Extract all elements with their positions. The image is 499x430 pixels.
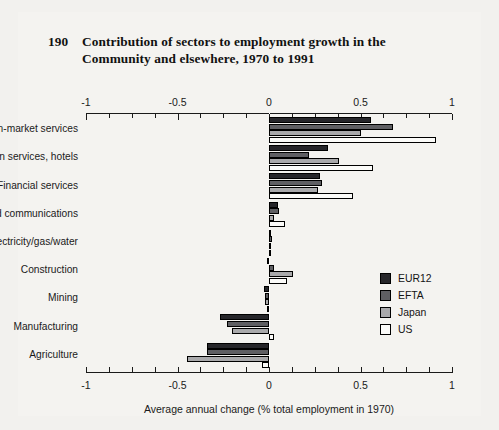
category-label: Distribution services, hotels xyxy=(0,151,78,162)
bar-us xyxy=(269,334,274,340)
figure-number: 190 xyxy=(48,34,82,51)
tick-label: 0.5 xyxy=(341,379,381,391)
bar-us xyxy=(269,137,436,143)
bar-japan xyxy=(232,328,269,334)
bar-efta xyxy=(269,208,279,214)
bar-us xyxy=(269,165,373,171)
legend-swatch-icon xyxy=(380,307,391,318)
bar-eur12 xyxy=(269,202,278,208)
bar-japan xyxy=(269,243,271,249)
major-tick xyxy=(452,114,453,120)
tick-label: 1 xyxy=(432,379,472,391)
category-label: Construction xyxy=(21,264,78,275)
bar-efta xyxy=(269,124,393,130)
bar-japan xyxy=(269,187,318,193)
figure-frame: 190Contribution of sectors to employment… xyxy=(18,12,481,416)
bar-eur12 xyxy=(269,117,371,123)
bar-group: Transport and communications xyxy=(86,202,452,228)
bar-us xyxy=(269,221,285,227)
legend-label: EFTA xyxy=(398,290,424,301)
category-label: Manufacturing xyxy=(13,321,78,332)
category-label: Agriculture xyxy=(29,349,78,360)
bar-eur12 xyxy=(269,173,320,179)
bar-eur12 xyxy=(267,258,269,264)
legend-swatch-icon xyxy=(380,324,391,335)
bar-efta xyxy=(269,180,322,186)
figure-title-line2: Community and elsewhere, 1970 to 1991 xyxy=(82,51,468,68)
category-label: Financial services xyxy=(0,180,78,191)
bar-efta xyxy=(269,265,274,271)
legend: EUR12EFTAJapanUS xyxy=(380,270,476,338)
legend-item: EFTA xyxy=(380,287,476,304)
bar-efta xyxy=(265,293,269,299)
chart-page: 190Contribution of sectors to employment… xyxy=(0,0,499,430)
legend-label: Japan xyxy=(398,307,426,318)
legend-item: Japan xyxy=(380,304,476,321)
bar-us xyxy=(269,278,287,284)
bar-japan xyxy=(269,271,293,277)
bar-group: Distribution services, hotels xyxy=(86,145,452,171)
tick-label: -0.5 xyxy=(158,379,198,391)
tick-label: 1 xyxy=(432,96,472,108)
bar-us xyxy=(267,306,269,312)
bar-us xyxy=(269,250,271,256)
major-tick xyxy=(452,367,453,373)
bar-eur12 xyxy=(269,145,328,151)
category-label: Non-market services xyxy=(0,123,78,134)
legend-label: EUR12 xyxy=(398,273,432,284)
legend-item: EUR12 xyxy=(380,270,476,287)
tick-label: 0.5 xyxy=(341,96,381,108)
bar-group: Financial services xyxy=(86,173,452,199)
bar-eur12 xyxy=(269,230,271,236)
x-axis-title: Average annual change (% total employmen… xyxy=(86,403,452,415)
bar-japan xyxy=(265,299,269,305)
bar-group: Electricity/gas/water xyxy=(86,230,452,256)
bar-eur12 xyxy=(220,314,269,320)
bar-us xyxy=(269,193,353,199)
tick-label: -1 xyxy=(66,96,106,108)
bar-eur12 xyxy=(264,286,269,292)
bar-group: Non-market services xyxy=(86,117,452,143)
bar-eur12 xyxy=(207,343,269,349)
bar-group: Agriculture xyxy=(86,343,452,369)
category-label: Transport and communications xyxy=(0,208,78,219)
legend-swatch-icon xyxy=(380,290,391,301)
bar-japan xyxy=(269,158,339,164)
tick-label: -0.5 xyxy=(158,96,198,108)
category-label: Mining xyxy=(48,292,78,303)
figure-title-line1: Contribution of sectors to employment gr… xyxy=(82,34,386,49)
figure-title: 190Contribution of sectors to employment… xyxy=(48,34,468,67)
bar-japan xyxy=(187,356,269,362)
bar-efta xyxy=(269,236,272,242)
tick-label: 0 xyxy=(249,379,289,391)
bar-japan xyxy=(269,215,274,221)
legend-swatch-icon xyxy=(380,273,391,284)
bar-efta xyxy=(269,152,309,158)
bar-efta xyxy=(227,321,269,327)
tick-label: 0 xyxy=(249,96,289,108)
bar-us xyxy=(262,362,269,368)
category-label: Electricity/gas/water xyxy=(0,236,78,247)
bar-efta xyxy=(207,349,269,355)
legend-item: US xyxy=(380,321,476,338)
tick-label: -1 xyxy=(66,379,106,391)
legend-label: US xyxy=(398,324,412,335)
bar-japan xyxy=(269,130,361,136)
